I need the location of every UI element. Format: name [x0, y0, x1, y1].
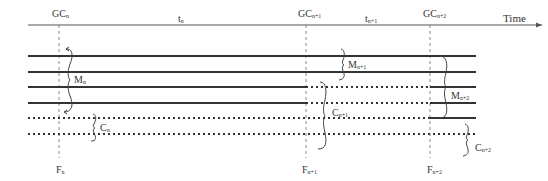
c-n1-label: Cn+1	[332, 108, 348, 118]
m-n2-label: Mn+2	[451, 91, 469, 101]
interval-t-n-label: tn	[178, 14, 184, 24]
gc-n-label: GCn	[52, 9, 69, 19]
brace-m-n1-icon	[339, 49, 344, 80]
time-axis-label: Time	[503, 13, 526, 24]
gc-n2-label: GCn+2	[423, 9, 446, 19]
brace-c-n1-icon	[318, 82, 326, 149]
f-n1-label: Fn+1	[302, 165, 317, 175]
c-n2-label: Cn+2	[475, 143, 491, 153]
time-axis-arrow-icon	[536, 23, 542, 28]
m-n-label: Mn	[74, 75, 86, 85]
f-n-label: Fn	[56, 165, 65, 175]
m-n1-label: Mn+1	[348, 60, 366, 70]
brace-c-n2-icon	[463, 124, 468, 156]
f-n2-label: Fn+2	[427, 165, 442, 175]
interval-t-n1-label: tn+1	[365, 14, 377, 24]
c-n-label: Cn	[100, 123, 110, 133]
gc-n1-label: GCn+1	[298, 9, 321, 19]
gc-timeline-diagram: GCn GCn+1 GCn+2 tn tn+1 Time Mn Mn+1 Mn+…	[0, 0, 548, 181]
